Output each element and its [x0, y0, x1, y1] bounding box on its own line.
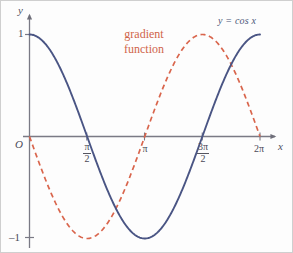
fraction-numerator: 3π: [197, 142, 209, 154]
fraction-pi-over-2: π 2: [83, 142, 90, 164]
fraction-denominator: 2: [197, 154, 209, 165]
y-axis-label: y: [18, 5, 23, 16]
x-axis-label: x: [278, 141, 283, 152]
y-tick-label-one: 1: [18, 28, 24, 39]
fraction-numerator: π: [83, 142, 90, 154]
x-tick-label-pi: π: [137, 144, 153, 154]
x-tick-label-3pi-over-2: 3π 2: [191, 142, 215, 164]
cosine-gradient-figure: y x 1 –1 O π 2 π 3π 2 2π y = cos x gradi…: [0, 0, 293, 253]
fraction-denominator: 2: [83, 154, 90, 165]
gradient-function-label-line-1: gradient: [108, 27, 180, 42]
x-tick-label-pi-over-2: π 2: [77, 142, 97, 164]
fraction-3pi-over-2: 3π 2: [197, 142, 209, 164]
gradient-function-label-line-2: function: [108, 42, 180, 57]
origin-label: O: [15, 139, 23, 150]
cos-curve-label: y = cos x: [218, 16, 256, 26]
y-tick-label-negative-one: –1: [9, 232, 20, 243]
x-tick-label-2pi: 2π: [249, 144, 269, 154]
gradient-function-label: gradient function: [108, 27, 180, 56]
